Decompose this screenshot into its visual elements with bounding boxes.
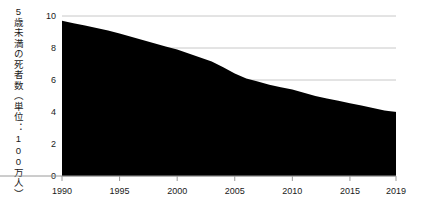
x-tick-label: 1990 [52,186,72,196]
x-tick-label: 2000 [167,186,187,196]
x-tick-label: 2010 [282,186,302,196]
x-tick-label: 2019 [386,186,406,196]
x-axis-tick-labels: 1990199520002005201020152019 [0,0,427,217]
x-tick-label: 1995 [110,186,130,196]
x-tick-label: 2005 [225,186,245,196]
x-tick-label: 2015 [340,186,360,196]
chart-figure: 5歳未満の死者数（単位：100万人） 0246810 1990199520002… [0,0,427,217]
